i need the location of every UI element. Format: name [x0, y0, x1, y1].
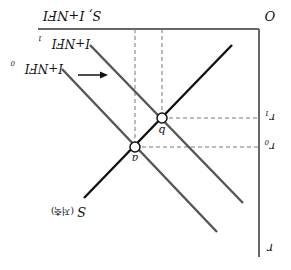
arrowhead-icon — [100, 72, 108, 79]
saving-label-note: (저축) — [51, 206, 74, 216]
loanable-funds-diagram: O r S, I+NFI r 1 r 0 b a I+NFI 1 I+NFI 0… — [0, 0, 291, 270]
shift-arrow — [78, 72, 108, 79]
investment-nfi-1-subscript: 1 — [38, 34, 42, 42]
vertical-axis-label: r — [266, 241, 273, 255]
investment-nfi-1-label: I+NFI 1 — [38, 34, 91, 50]
equilibrium-point-b — [157, 113, 167, 123]
horizontal-axis-label: S, I+NFI — [42, 8, 101, 23]
saving-label-text: S — [77, 204, 86, 219]
saving-label: S (저축) — [51, 204, 86, 219]
r0-subscript: 0 — [264, 138, 269, 146]
guide-lines — [135, 29, 259, 147]
investment-nfi-0-label: I+NFI 0 — [10, 59, 64, 75]
r0-label: r 0 — [264, 138, 275, 153]
r1-label: r 1 — [265, 109, 275, 124]
investment-nfi-0-subscript: 0 — [10, 59, 15, 67]
r1-subscript: 1 — [265, 109, 269, 117]
origin-label: O — [264, 8, 275, 23]
equilibrium-point-a — [130, 142, 140, 152]
investment-nfi-0-label-text: I+NFI — [24, 61, 64, 75]
investment-nfi-1-label-text: I+NFI — [51, 36, 91, 50]
axes — [38, 29, 259, 257]
point-b-label: b — [158, 124, 165, 137]
point-a-label: a — [132, 152, 139, 165]
